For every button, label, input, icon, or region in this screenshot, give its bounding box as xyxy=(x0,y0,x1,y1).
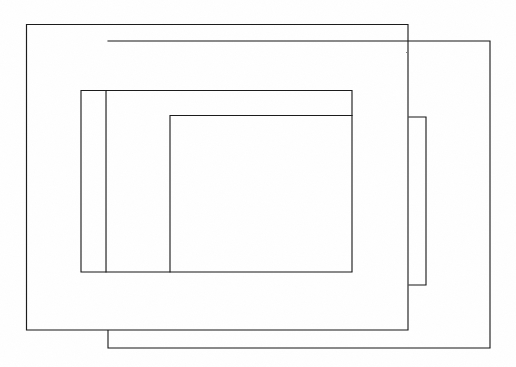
figure-canvas-root xyxy=(0,0,516,367)
figure-background xyxy=(0,0,516,367)
rectangles-line-drawing xyxy=(0,0,516,367)
